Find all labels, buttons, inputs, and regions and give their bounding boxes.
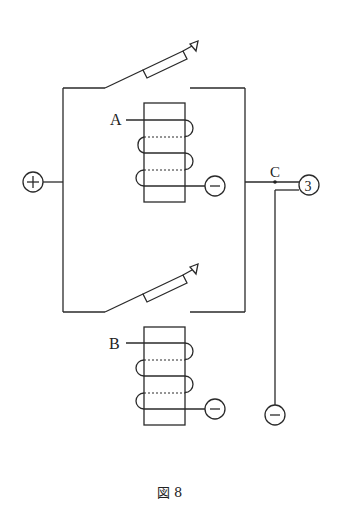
coil-b	[126, 327, 225, 425]
switch-bottom	[63, 264, 245, 312]
terminal-plus	[23, 172, 63, 192]
coil-a	[126, 103, 225, 202]
junction-c-label: C	[270, 164, 280, 180]
junction-c	[245, 175, 319, 425]
coil-a-label: A	[110, 111, 122, 128]
terminal-3-label: 3	[305, 179, 312, 194]
figure-caption: 図 8	[0, 482, 339, 501]
circuit-diagram: A B C 3	[0, 0, 339, 509]
coil-b-label: B	[109, 335, 120, 352]
